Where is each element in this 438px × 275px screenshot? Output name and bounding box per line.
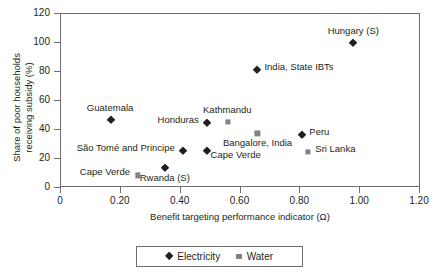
data-point-label: São Tomé and Principe <box>77 142 175 153</box>
y-axis-tick-label: 20 <box>0 152 50 163</box>
x-axis-tick <box>359 187 360 193</box>
diamond-marker-icon <box>165 252 174 261</box>
plot-area <box>60 13 420 187</box>
square-marker-icon <box>236 254 242 260</box>
data-point-label: Honduras <box>158 114 199 125</box>
x-axis-tick-label: 0.20 <box>97 195 143 206</box>
x-axis-tick <box>120 187 121 193</box>
legend-item-label: Electricity <box>177 251 220 262</box>
y-axis-tick-label: 100 <box>0 36 50 47</box>
plot-top-border <box>60 13 420 14</box>
x-axis-tick <box>60 187 61 193</box>
data-point-label: Sri Lanka <box>315 143 355 154</box>
data-point-label: Kathmandu <box>203 104 252 115</box>
x-axis-tick <box>299 187 300 193</box>
plot-right-border <box>419 13 420 187</box>
data-point-sri-lanka[interactable] <box>306 150 311 155</box>
data-point-cape-verde[interactable] <box>135 173 140 178</box>
y-axis-tick-label: 0 <box>0 181 50 192</box>
y-axis-title-line-2: receiving subsidy (%) <box>22 28 34 188</box>
legend-item-water[interactable]: Water <box>236 251 273 262</box>
legend-item-label: Water <box>247 251 273 262</box>
y-axis-tick-label: 60 <box>0 94 50 105</box>
x-axis-tick <box>240 187 241 193</box>
y-axis-tick-label: 40 <box>0 123 50 134</box>
data-point-label: India, State IBTs <box>264 61 333 72</box>
y-axis-tick <box>54 71 60 72</box>
y-axis-tick <box>54 13 60 14</box>
data-point-kathmandu[interactable] <box>225 119 230 124</box>
scatter-chart: Share of poor households receiving subsi… <box>0 0 438 275</box>
y-axis-title-line-1: Share of poor households <box>11 28 23 188</box>
y-axis-tick <box>54 42 60 43</box>
data-point-label: Cape Verde <box>80 166 130 177</box>
legend-item-electricity[interactable]: Electricity <box>166 251 220 262</box>
data-point-label: Rwanda (S) <box>140 172 190 183</box>
x-axis-tick-label: 0.40 <box>157 195 203 206</box>
data-point-label: Bangalore, India <box>223 137 292 148</box>
data-point-bangalore-india[interactable] <box>255 131 260 136</box>
x-axis-tick-label: 0.60 <box>217 195 263 206</box>
y-axis-tick <box>54 158 60 159</box>
y-axis-tick <box>54 100 60 101</box>
y-axis-title: Share of poor households receiving subsi… <box>11 28 34 188</box>
x-axis-tick <box>419 187 420 193</box>
x-axis-title: Benefit targeting performance indicator … <box>60 211 420 222</box>
x-axis-tick-label: 1.00 <box>336 195 382 206</box>
x-axis-tick <box>180 187 181 193</box>
data-point-label: Hungary (S) <box>328 25 379 36</box>
data-point-label: Peru <box>309 126 329 137</box>
y-axis-tick-label: 120 <box>0 7 50 18</box>
data-point-label: Cape Verde <box>211 149 261 160</box>
x-axis-tick-label: 1.20 <box>396 195 438 206</box>
y-axis-tick <box>54 129 60 130</box>
x-axis-tick-label: 0.80 <box>276 195 322 206</box>
data-point-label: Guatemala <box>87 102 133 113</box>
y-axis-tick-label: 80 <box>0 65 50 76</box>
x-axis-tick-label: 0 <box>37 195 83 206</box>
chart-legend: ElectricityWater <box>136 246 303 267</box>
